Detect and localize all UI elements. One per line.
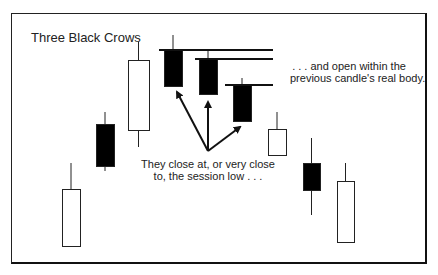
candle-9 (338, 163, 355, 243)
bearish-candle-body (165, 51, 183, 87)
open-within-note-line1: . . . and open within the (290, 60, 408, 72)
candle-1 (63, 163, 81, 247)
close-low-note-line1: They close at, or very close (140, 158, 276, 170)
candle-8 (304, 138, 321, 215)
close-low-note: They close at, or very close to, the ses… (140, 158, 276, 182)
bullish-candle-body (269, 130, 287, 156)
crow-candle-2 (200, 50, 218, 95)
open-within-note-line2: previous candle's real body. (290, 72, 408, 84)
close-low-note-line2: to, the session low . . . (140, 170, 276, 182)
candle-3 (129, 42, 150, 147)
bullish-candle-body (129, 61, 150, 131)
bearish-candle-body (234, 86, 252, 122)
bullish-candle-body (338, 182, 355, 243)
candle-7 (269, 112, 287, 156)
open-within-note: . . . and open within the previous candl… (290, 60, 408, 84)
crow-candle-1 (165, 35, 183, 87)
bearish-candle-body (200, 60, 218, 95)
bullish-candle-body (63, 190, 81, 247)
bearish-candle-body (304, 164, 321, 191)
candle-2 (97, 112, 115, 171)
bearish-candle-body (97, 125, 115, 167)
close-low-arrows (177, 92, 240, 151)
diagram-title: Three Black Crows (31, 30, 141, 45)
arrow-icon-3 (208, 127, 240, 151)
arrow-icon-1 (177, 92, 208, 151)
